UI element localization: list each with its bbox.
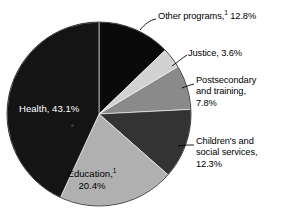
slice-label-other-programs: Other programs,1 12.8% — [158, 11, 256, 22]
label-text-other-programs: Other programs, — [158, 11, 224, 21]
footnote-marker-education: 1 — [113, 167, 117, 174]
pie-chart: Other programs,1 12.8% Justice, 3.6% Pos… — [0, 0, 287, 218]
label-value-other-programs: 12.8% — [228, 11, 256, 21]
scan-artifact-dot — [71, 124, 74, 127]
slice-label-justice: Justice, 3.6% — [188, 48, 242, 59]
leader-line-other-programs — [140, 19, 156, 30]
slice-label-health: Health, 43.1% — [19, 103, 79, 115]
label-value-education: 20.4% — [78, 180, 105, 191]
slice-label-education: Education,120.4% — [55, 168, 129, 191]
slice-label-children-social-services: Children's and social services, 12.3% — [196, 136, 257, 170]
label-text-education: Education, — [67, 168, 112, 179]
slice-label-postsecondary: Postsecondary and training, 7.8% — [196, 75, 256, 109]
